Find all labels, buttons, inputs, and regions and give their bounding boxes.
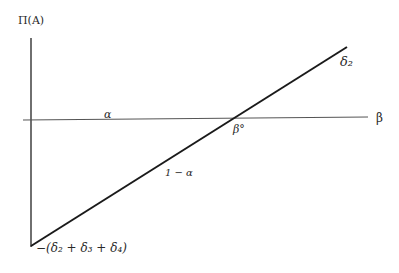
- intercept-label: β°: [232, 123, 245, 136]
- x-axis-label: β: [376, 111, 383, 125]
- alpha-line: [23, 117, 368, 120]
- slope-label: 1 − α: [165, 167, 193, 178]
- y-axis-label: Π(A): [18, 14, 44, 27]
- bottom-intercept-label: −(δ₂ + δ₃ + δ₄): [36, 241, 127, 255]
- top-right-label: δ₂: [340, 54, 353, 69]
- alpha-label: α: [104, 108, 112, 121]
- profit-line: [31, 47, 347, 246]
- profit-diagram: Π(A) β α β° 1 − α δ₂ −(δ₂ + δ₃ + δ₄): [0, 0, 399, 273]
